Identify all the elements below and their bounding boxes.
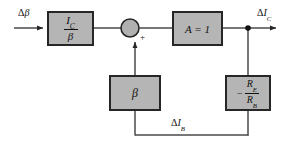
summing-junction-shape[interactable] (121, 19, 139, 37)
re-over-rb-feedback-block-shape[interactable] (226, 76, 270, 110)
diagram-canvas (0, 0, 291, 149)
block-diagram: IC β A = 1 β − RE RB + Δβ ΔIC ΔIB (0, 0, 291, 149)
ic-over-beta-block-shape[interactable] (48, 12, 93, 45)
amplifier-block-shape[interactable] (173, 12, 222, 45)
block-shapes (48, 12, 270, 110)
summing-junction-plus-sign: + (140, 33, 145, 42)
output-tap-node (245, 25, 251, 31)
beta-feedback-block-shape[interactable] (110, 76, 160, 110)
